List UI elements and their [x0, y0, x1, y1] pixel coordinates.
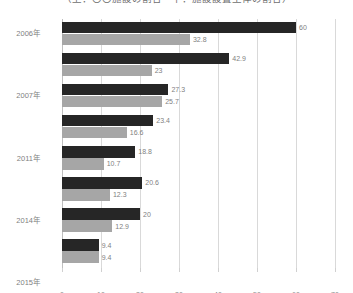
- bar: [62, 84, 168, 96]
- bar: [62, 96, 162, 108]
- x-tick-mark-40: [218, 268, 219, 272]
- x-tick-mark-60: [296, 268, 297, 272]
- x-tick-mark-20: [140, 268, 141, 272]
- bar-group: 9.49.42018年: [62, 237, 335, 268]
- bar-group: 20.612.32016年: [62, 175, 335, 206]
- bar-group: 2012.92017年: [62, 206, 335, 237]
- bar: [62, 65, 152, 77]
- bar: [62, 251, 99, 263]
- chart-title-clip: （上：〇〇施設の割合 下：施設設置主体の割合）: [0, 0, 353, 8]
- category-label: 2006年: [0, 30, 40, 38]
- x-tick-mark-0: [62, 268, 63, 272]
- bar: [62, 239, 99, 251]
- bar: [62, 220, 112, 232]
- bar-value-label: 18.8: [138, 148, 152, 155]
- page-title: （上：〇〇施設の割合 下：施設設置主体の割合）: [0, 0, 353, 5]
- bar-value-label: 60: [299, 24, 307, 31]
- bar-value-label: 32.8: [193, 36, 207, 43]
- category-label: 2015年: [0, 279, 40, 287]
- bar: [62, 146, 135, 158]
- bar-group: 6032.82006年: [62, 19, 335, 50]
- bar: [62, 127, 127, 139]
- x-tick-mark-70: [335, 268, 336, 272]
- bar: [62, 189, 110, 201]
- bar-value-label: 16.6: [130, 129, 144, 136]
- bar-value-label: 20.6: [145, 179, 159, 186]
- category-label: 2014年: [0, 217, 40, 225]
- bar-value-label: 12.3: [113, 191, 127, 198]
- category-label: 2007年: [0, 92, 40, 100]
- gridline-70: [335, 19, 336, 268]
- bar-group: 42.9232007年: [62, 50, 335, 81]
- bar-value-label: 9.4: [102, 254, 112, 261]
- x-tick-mark-30: [179, 268, 180, 272]
- x-tick-mark-10: [101, 268, 102, 272]
- bar: [62, 115, 153, 127]
- bar: [62, 22, 296, 34]
- bar: [62, 34, 190, 46]
- bar-group: 18.810.72015年: [62, 144, 335, 175]
- category-label: 2011年: [0, 155, 40, 163]
- bar-value-label: 25.7: [165, 98, 179, 105]
- bar-value-label: 12.9: [115, 223, 129, 230]
- bar-value-label: 27.3: [171, 86, 185, 93]
- plot-area: 0102030405060706032.82006年42.9232007年27.…: [62, 19, 335, 268]
- bar-group: 27.325.72011年: [62, 81, 335, 112]
- bar: [62, 158, 104, 170]
- bar-value-label: 9.4: [102, 242, 112, 249]
- bar-value-label: 23: [155, 67, 163, 74]
- bar-value-label: 20: [143, 211, 151, 218]
- bar-value-label: 23.4: [156, 117, 170, 124]
- bar-value-label: 42.9: [232, 55, 246, 62]
- bar-value-label: 10.7: [107, 160, 121, 167]
- bar: [62, 177, 142, 189]
- bar-chart: （上：〇〇施設の割合 下：施設設置主体の割合） 0102030405060706…: [0, 0, 353, 293]
- x-tick-mark-50: [257, 268, 258, 272]
- bar: [62, 208, 140, 220]
- bar-group: 23.416.62014年: [62, 112, 335, 143]
- bar: [62, 53, 229, 65]
